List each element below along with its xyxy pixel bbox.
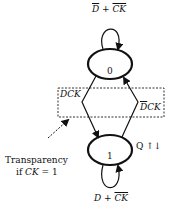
transparency-note-line1: Transparency xyxy=(5,156,68,165)
label-ckbar: CK xyxy=(112,4,126,14)
self-loop-1-label: D + CK xyxy=(94,194,128,203)
label-ckbar: CK xyxy=(114,193,128,203)
note-eq1: = 1 xyxy=(39,167,58,177)
transparency-pointer-arrow xyxy=(48,120,68,138)
state-1-label: 1 xyxy=(107,152,113,161)
state-1-annotation: Q ↑↓ xyxy=(136,142,161,151)
transition-0-to-1-arrow xyxy=(82,76,98,137)
label-ck: CK xyxy=(147,102,161,112)
note-if: if xyxy=(16,167,25,177)
label-plus: + xyxy=(99,4,112,14)
note-ck: CK xyxy=(25,167,39,177)
self-loop-1-arrow xyxy=(102,165,119,188)
self-loop-0-arrow xyxy=(102,29,119,49)
transition-0-to-1-label: DCK xyxy=(60,90,81,99)
self-loop-0-label: D + CK xyxy=(92,5,126,14)
label-plus: + xyxy=(101,193,114,203)
transition-1-to-0-label: DCK xyxy=(140,103,161,112)
transparency-note-line2: if CK = 1 xyxy=(16,168,58,177)
state-0-label: 0 xyxy=(107,67,113,76)
transition-1-to-0-arrow xyxy=(122,78,138,137)
